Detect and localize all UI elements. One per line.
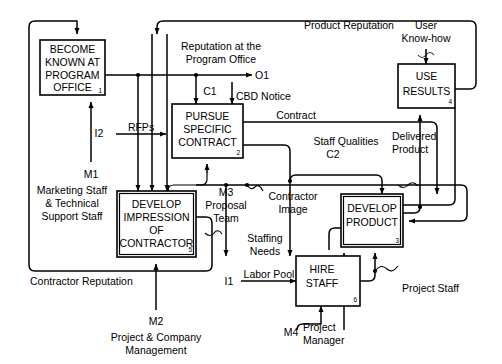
icom-m3: M3 <box>219 186 234 198</box>
label-project-company-management-0: Project & Company <box>111 331 202 343</box>
label-project-manager-1: Manager <box>303 334 345 346</box>
box3-number: 3 <box>395 237 399 244</box>
box6-line-0: HIRE <box>309 263 334 275</box>
label-marketing-staff-2: Support Staff <box>41 210 102 222</box>
label-project-staff: Project Staff <box>402 282 459 294</box>
label-product-reputation: Product Reputation <box>304 19 394 31</box>
box4-number: 4 <box>448 98 452 105</box>
label-proposal-team-1: Team <box>213 212 239 224</box>
box2-number: 2 <box>236 149 240 156</box>
icom-c1: C1 <box>203 85 217 97</box>
activity-box-develop-impression[interactable]: DEVELOP IMPRESSION OF CONTRACTOR 5 <box>117 191 196 257</box>
label-project-manager-0: Project <box>303 321 336 333</box>
icom-m2: M2 <box>149 315 164 327</box>
box2-line-2: CONTRACT <box>178 136 237 148</box>
junction-dot-reputation <box>194 73 198 77</box>
label-labor-pool: Labor Pool <box>244 268 295 280</box>
label-staffing-needs-1: Needs <box>250 245 280 257</box>
box3-line-1: PRODUCT <box>346 216 399 228</box>
label-contractor-reputation: Contractor Reputation <box>30 275 133 287</box>
activity-box-develop-product[interactable]: DEVELOP PRODUCT 3 <box>341 194 403 247</box>
label-rfps: RFPs <box>128 121 154 133</box>
icom-m4: M4 <box>284 326 299 338</box>
activity-box-hire-staff[interactable]: HIRE STAFF 6 <box>296 256 360 306</box>
box4-line-1: RESULTS <box>403 85 451 97</box>
label-user-knowhow-0: User <box>415 19 438 31</box>
label-delivered-product-1: Product <box>392 143 428 155</box>
box1-line-2: PROGRAM <box>45 69 99 81</box>
box5-line-1: IMPRESSION <box>124 211 190 223</box>
icom-m1: M1 <box>84 168 99 180</box>
label-delivered-product-0: Delivered <box>392 130 437 142</box>
box1-number: 1 <box>98 87 102 94</box>
label-cbd-notice: CBD Notice <box>236 90 291 102</box>
box5-line-2: OF <box>149 224 164 236</box>
box4-line-0: USE <box>416 70 438 82</box>
box2-line-1: SPECIFIC <box>183 123 232 135</box>
label-contractor-image-1: Image <box>278 203 307 215</box>
label-proposal-team-0: Proposal <box>205 199 246 211</box>
box6-line-1: STAFF <box>306 277 338 289</box>
activity-box-pursue-specific-contract[interactable]: PURSUE SPECIFIC CONTRACT 2 <box>172 104 243 158</box>
idef0-diagram-canvas: BECOME KNOWN AT PROGRAM OFFICE 1 PURSUE … <box>0 0 502 364</box>
label-staffing-needs-0: Staffing <box>247 232 283 244</box>
label-staff-qualities: Staff Qualities <box>313 135 378 147</box>
box5-line-3: CONTRACTOR <box>120 237 194 249</box>
icom-i1: I1 <box>225 275 234 287</box>
junction-dot-staff-qualities <box>288 179 292 183</box>
box5-line-0: DEVELOP <box>132 198 182 210</box>
box6-number: 6 <box>353 296 357 303</box>
box1-line-3: OFFICE <box>53 81 92 93</box>
label-contractor-image-0: Contractor <box>268 190 318 202</box>
box1-line-0: BECOME <box>50 43 96 55</box>
label-contract: Contract <box>276 109 316 121</box>
label-project-company-management-1: Management <box>125 344 186 356</box>
icom-i2: I2 <box>95 127 104 139</box>
box1-line-1: KNOWN AT <box>45 56 101 68</box>
activity-box-use-results[interactable]: USE RESULTS 4 <box>398 64 455 108</box>
box5-number: 5 <box>188 246 192 253</box>
label-reputation-program-office-0: Reputation at the <box>181 40 261 52</box>
label-marketing-staff-0: Marketing Staff <box>37 184 108 196</box>
icom-o1: O1 <box>255 69 269 81</box>
activity-box-become-known[interactable]: BECOME KNOWN AT PROGRAM OFFICE 1 <box>40 40 105 95</box>
label-marketing-staff-1: & Technical <box>45 197 99 209</box>
label-user-knowhow-1: Know-how <box>401 32 450 44</box>
icom-c2: C2 <box>326 148 340 160</box>
box2-line-0: PURSUE <box>186 110 230 122</box>
box3-line-0: DEVELOP <box>347 202 397 214</box>
junction-dot-trunk-a <box>136 73 140 77</box>
label-reputation-program-office-1: Program Office <box>186 53 257 65</box>
